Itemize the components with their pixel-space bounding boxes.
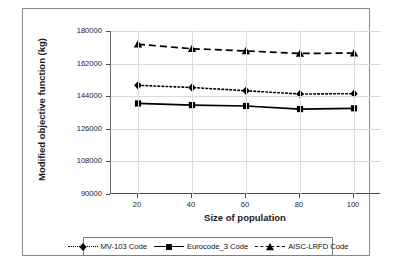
x-tick-mark — [299, 194, 300, 198]
y-tick-label: 108000 — [56, 156, 102, 165]
x-tick-mark — [245, 194, 246, 198]
x-tick-label: 40 — [171, 200, 211, 209]
x-gridline — [138, 31, 139, 194]
plot-area — [110, 31, 380, 194]
y-tick-label: 126000 — [56, 124, 102, 133]
legend-item[interactable]: MV-103 Code — [68, 242, 147, 252]
x-gridline — [192, 31, 193, 194]
y-tick-mark — [106, 96, 110, 97]
chart-legend: MV-103 CodeEurocode_3 CodeAISC-LRFD Code — [83, 237, 333, 256]
chart-frame: Modified objective function (kg) 9000010… — [22, 8, 370, 256]
diamond-marker-icon — [77, 241, 89, 253]
legend-line-sample — [68, 242, 98, 252]
x-tick-label: 60 — [225, 200, 265, 209]
y-tick-mark — [106, 161, 110, 162]
x-gridline — [354, 31, 355, 194]
x-tick-label: 100 — [333, 200, 373, 209]
x-tick-mark — [191, 194, 192, 198]
x-tick-label: 80 — [279, 200, 319, 209]
legend-item[interactable]: Eurocode_3 Code — [154, 242, 248, 252]
x-gridline — [246, 31, 247, 194]
square-marker-icon — [163, 241, 175, 253]
x-tick-mark — [353, 194, 354, 198]
y-tick-mark — [106, 31, 110, 32]
legend-label: Eurocode_3 Code — [187, 242, 248, 251]
legend-label: AISC-LRFD Code — [288, 242, 348, 251]
legend-item[interactable]: AISC-LRFD Code — [255, 242, 348, 252]
x-tick-mark — [137, 194, 138, 198]
legend-line-sample — [255, 242, 285, 252]
y-tick-mark — [106, 194, 110, 195]
y-tick-label: 180000 — [56, 26, 102, 35]
y-tick-mark — [106, 64, 110, 65]
y-tick-label: 162000 — [56, 59, 102, 68]
y-axis-title: Modified objective function (kg) — [36, 30, 47, 190]
y-tick-label: 144000 — [56, 91, 102, 100]
y-tick-label: 90000 — [56, 189, 102, 198]
legend-label: MV-103 Code — [101, 242, 147, 251]
y-tick-mark — [106, 129, 110, 130]
x-axis-title: Size of population — [110, 212, 380, 223]
triangle-marker-icon — [264, 241, 276, 253]
x-tick-label: 20 — [117, 200, 157, 209]
chart-figure: Modified objective function (kg) 9000010… — [0, 0, 393, 265]
x-gridline — [300, 31, 301, 194]
legend-line-sample — [154, 242, 184, 252]
